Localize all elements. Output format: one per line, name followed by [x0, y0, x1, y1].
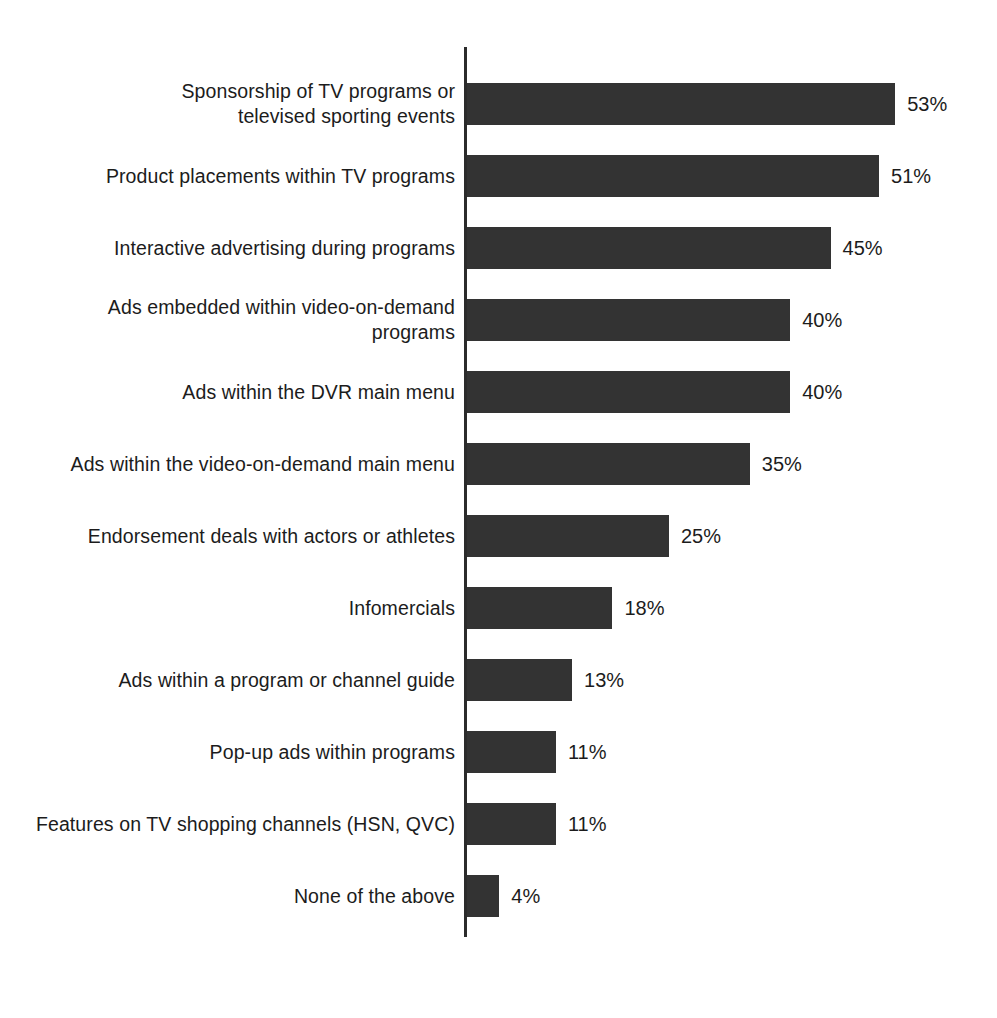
bar-value-label: 11%: [568, 731, 607, 773]
bar-track: 40%: [467, 371, 842, 413]
bar-row: Ads embedded within video-on-demand prog…: [0, 299, 997, 371]
bar: [467, 587, 612, 629]
bar-row: Pop-up ads within programs11%: [0, 731, 997, 803]
bar: [467, 443, 750, 485]
bar: [467, 155, 879, 197]
bar-track: 11%: [467, 803, 606, 845]
category-label: Ads within the video-on-demand main menu: [25, 443, 455, 485]
plot-area: Sponsorship of TV programs or televised …: [0, 0, 997, 1018]
bar-value-label: 4%: [511, 875, 540, 917]
category-label: Ads embedded within video-on-demand prog…: [25, 299, 455, 341]
bar-row: Ads within a program or channel guide13%: [0, 659, 997, 731]
bar-value-label: 13%: [584, 659, 624, 701]
category-label: Infomercials: [25, 587, 455, 629]
bar-track: 18%: [467, 587, 664, 629]
bar: [467, 875, 499, 917]
bar-value-label: 40%: [802, 299, 842, 341]
bar-value-label: 51%: [891, 155, 931, 197]
bar-track: 53%: [467, 83, 947, 125]
bar-track: 45%: [467, 227, 883, 269]
bar-rows: Sponsorship of TV programs or televised …: [0, 83, 997, 947]
bar-row: Sponsorship of TV programs or televised …: [0, 83, 997, 155]
bar-value-label: 35%: [762, 443, 802, 485]
bar-row: Interactive advertising during programs4…: [0, 227, 997, 299]
bar-row: None of the above4%: [0, 875, 997, 947]
bar-row: Ads within the DVR main menu40%: [0, 371, 997, 443]
category-label: Features on TV shopping channels (HSN, Q…: [25, 803, 455, 845]
bar-row: Infomercials18%: [0, 587, 997, 659]
bar-chart: Sponsorship of TV programs or televised …: [0, 0, 997, 1018]
bar: [467, 83, 895, 125]
category-label: Interactive advertising during programs: [25, 227, 455, 269]
bar: [467, 227, 831, 269]
bar-row: Product placements within TV programs51%: [0, 155, 997, 227]
bar-track: 35%: [467, 443, 802, 485]
bar: [467, 731, 556, 773]
bar-row: Endorsement deals with actors or athlete…: [0, 515, 997, 587]
bar-value-label: 25%: [681, 515, 721, 557]
category-label: Pop-up ads within programs: [25, 731, 455, 773]
bar-track: 40%: [467, 299, 842, 341]
bar-track: 13%: [467, 659, 624, 701]
bar: [467, 515, 669, 557]
category-label: Ads within the DVR main menu: [25, 371, 455, 413]
bar-value-label: 45%: [843, 227, 883, 269]
bar-value-label: 18%: [624, 587, 664, 629]
bar: [467, 299, 790, 341]
bar-value-label: 40%: [802, 371, 842, 413]
bar: [467, 803, 556, 845]
category-label: Product placements within TV programs: [25, 155, 455, 197]
bar-track: 11%: [467, 731, 606, 773]
bar-row: Ads within the video-on-demand main menu…: [0, 443, 997, 515]
bar-value-label: 11%: [568, 803, 607, 845]
category-label: Endorsement deals with actors or athlete…: [25, 515, 455, 557]
category-label: None of the above: [25, 875, 455, 917]
bar-track: 4%: [467, 875, 540, 917]
bar-track: 25%: [467, 515, 721, 557]
category-label: Sponsorship of TV programs or televised …: [25, 83, 455, 125]
bar: [467, 371, 790, 413]
bar-value-label: 53%: [907, 83, 947, 125]
category-label: Ads within a program or channel guide: [25, 659, 455, 701]
bar-row: Features on TV shopping channels (HSN, Q…: [0, 803, 997, 875]
bar-track: 51%: [467, 155, 931, 197]
bar: [467, 659, 572, 701]
